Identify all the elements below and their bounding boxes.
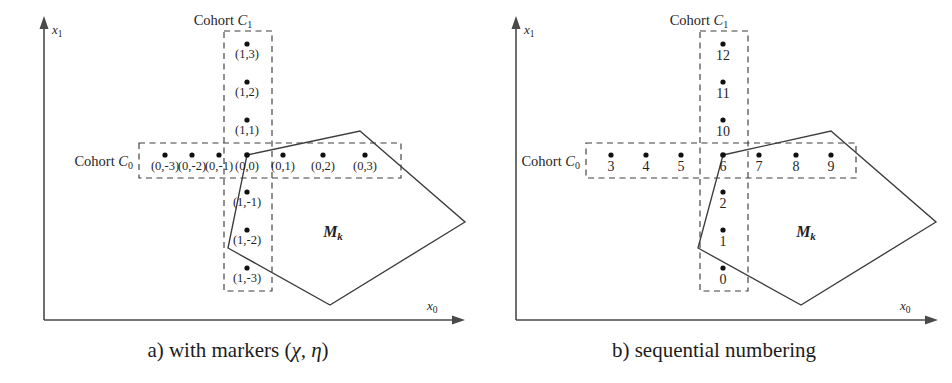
data-point <box>362 152 367 157</box>
seq-label: 0 <box>720 272 727 287</box>
caption-panel-b: b) sequential numbering <box>476 338 952 363</box>
region-label-mk: Mk <box>322 223 343 242</box>
cohort-c0-points-a: (0,-3) (0,-2) (0,-1) (0,0) (0,1) (0,2) (… <box>151 152 377 173</box>
region-label-mk: Mk <box>795 223 816 242</box>
seq-label: 10 <box>716 124 730 139</box>
marker-label: (1,1) <box>235 123 259 137</box>
data-point <box>643 152 648 157</box>
marker-label: (0,-1) <box>205 159 233 173</box>
marker-label: (0,2) <box>311 159 335 173</box>
y-axis-label: x1 <box>51 22 63 39</box>
marker-label: (1,3) <box>235 47 259 61</box>
data-point <box>244 79 249 84</box>
data-point <box>756 152 761 157</box>
panel-b-diagram: x1 x0 Mk Cohort C1 Cohort C0 3 4 5 6 7 8 <box>476 0 952 383</box>
seq-label: 5 <box>678 159 685 174</box>
seq-label: 6 <box>720 159 727 174</box>
caption-a-suffix: ) <box>322 338 329 362</box>
caption-panel-a: a) with markers (χ, η) <box>0 338 476 363</box>
marker-label: (1,2) <box>235 85 259 99</box>
marker-label: (0,3) <box>353 159 377 173</box>
figure-root: x1 x0 Mk Cohort C1 Cohort C0 (0,-3) (0,-… <box>0 0 952 383</box>
cohort-c0-points-b: 3 4 5 6 7 8 9 <box>608 152 835 174</box>
cohort-c1-label: Cohort C1 <box>670 12 729 30</box>
data-point <box>720 117 725 122</box>
marker-label: (1,-3) <box>233 271 261 285</box>
seq-label: 4 <box>643 159 650 174</box>
seq-label: 9 <box>828 159 835 174</box>
data-point <box>162 152 167 157</box>
marker-label: (0,-3) <box>151 159 179 173</box>
cohort-c1-label: Cohort C1 <box>194 12 253 30</box>
y-axis-label: x1 <box>523 22 535 39</box>
data-point <box>320 152 325 157</box>
panel-a-diagram: x1 x0 Mk Cohort C1 Cohort C0 (0,-3) (0,-… <box>0 0 476 383</box>
data-point <box>244 41 249 46</box>
data-point <box>828 152 833 157</box>
seq-label: 1 <box>720 234 727 249</box>
data-point <box>720 79 725 84</box>
data-point <box>280 152 285 157</box>
caption-a-greek: χ, η <box>291 338 321 362</box>
data-point <box>720 227 725 232</box>
seq-label: 7 <box>756 159 763 174</box>
data-point <box>678 152 683 157</box>
data-point <box>189 152 194 157</box>
seq-label: 11 <box>716 86 729 101</box>
caption-b-text: b) sequential numbering <box>612 338 816 362</box>
data-point <box>720 189 725 194</box>
x-axis-label: x0 <box>426 298 438 315</box>
data-point-origin <box>720 152 726 158</box>
data-point <box>244 189 249 194</box>
seq-label: 12 <box>716 48 730 63</box>
cohort-c0-label: Cohort C0 <box>74 153 133 171</box>
x-axis-label: x0 <box>899 298 911 315</box>
data-point <box>608 152 613 157</box>
y-axis-arrowhead <box>512 16 521 29</box>
marker-label: (0,-2) <box>178 159 206 173</box>
data-point <box>216 152 221 157</box>
data-point <box>720 265 725 270</box>
seq-label: 2 <box>720 196 727 211</box>
marker-label: (0,1) <box>271 159 295 173</box>
data-point <box>244 265 249 270</box>
data-point <box>244 227 249 232</box>
data-point <box>720 41 725 46</box>
data-point-origin <box>244 152 250 158</box>
caption-a-prefix: a) with markers ( <box>147 338 291 362</box>
x-axis-arrowhead <box>452 316 465 325</box>
region-polygon-mk <box>698 131 936 305</box>
y-axis-arrowhead <box>40 16 49 29</box>
marker-label: (1,-1) <box>233 195 261 209</box>
seq-label: 3 <box>608 159 615 174</box>
seq-label: 8 <box>793 159 800 174</box>
cohort-c0-label: Cohort C0 <box>521 153 580 171</box>
data-point <box>244 117 249 122</box>
x-axis-arrowhead <box>925 316 938 325</box>
region-polygon-mk <box>228 131 465 305</box>
data-point <box>793 152 798 157</box>
marker-label: (1,-2) <box>233 233 261 247</box>
marker-label: (0,0) <box>235 159 259 173</box>
